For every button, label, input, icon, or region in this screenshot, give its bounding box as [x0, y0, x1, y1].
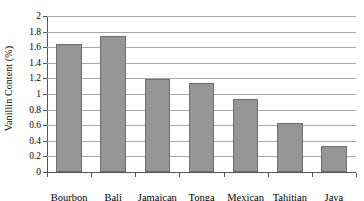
y-axis-tick — [43, 78, 47, 79]
y-axis-tick-label: 0 — [36, 167, 41, 177]
y-axis-tick-label: 1.4 — [29, 58, 41, 68]
y-axis-tick — [43, 94, 47, 95]
gridline — [47, 32, 356, 33]
bar — [145, 79, 171, 172]
x-axis-tick — [356, 173, 357, 177]
y-axis-tick-label: 1 — [36, 89, 41, 99]
x-axis-category-label: Tonga — [188, 192, 214, 201]
y-axis-tick — [43, 110, 47, 111]
y-axis-tick-label: 0.8 — [29, 105, 41, 115]
y-axis-tick — [43, 63, 47, 64]
y-axis-tick-label: 1.8 — [29, 27, 41, 37]
plot-area: 00.20.40.60.811.21.41.61.82 BourbonBaliJ… — [47, 16, 356, 172]
y-axis-tick — [43, 32, 47, 33]
gridline — [47, 47, 356, 48]
x-axis-category-label: Mexican — [227, 192, 264, 201]
y-axis-tick-label: 1.6 — [29, 42, 41, 52]
y-axis-tick — [43, 125, 47, 126]
bar-chart-figure: Vanillin Content (%) 00.20.40.60.811.21.… — [0, 0, 364, 201]
bar — [189, 83, 215, 172]
y-axis-tick — [43, 16, 47, 17]
bar — [233, 99, 259, 172]
y-axis-title: Vanillin Content (%) — [0, 0, 18, 176]
x-axis-category-label: Bourbon — [51, 192, 88, 201]
gridline — [47, 78, 356, 79]
y-axis-tick-label: 1.2 — [29, 73, 41, 83]
y-axis-tick-label: 0.4 — [29, 136, 41, 146]
gridline — [47, 16, 356, 17]
x-axis-category-label: Tahitian — [273, 192, 307, 201]
x-axis-tick — [135, 173, 136, 177]
bar — [277, 123, 303, 172]
x-axis-category-label: Jamaican — [138, 192, 177, 201]
y-axis-tick — [43, 156, 47, 157]
bar — [321, 146, 347, 172]
x-axis-tick — [179, 173, 180, 177]
y-axis-tick-label: 0.2 — [29, 151, 41, 161]
x-axis-category-label: Bali — [104, 192, 122, 201]
y-axis-tick-label: 2 — [36, 11, 41, 21]
x-axis-tick — [268, 173, 269, 177]
y-axis-tick — [43, 141, 47, 142]
y-axis-tick — [43, 47, 47, 48]
y-axis-tick-label: 0.6 — [29, 120, 41, 130]
x-axis-category-label: Java — [325, 192, 344, 201]
bar — [100, 36, 126, 173]
bar — [56, 44, 82, 172]
x-axis-tick — [91, 173, 92, 177]
x-axis-tick — [224, 173, 225, 177]
y-axis-title-text: Vanillin Content (%) — [4, 45, 15, 130]
gridline — [47, 63, 356, 64]
x-axis-tick — [312, 173, 313, 177]
x-axis-line — [47, 172, 356, 173]
x-axis-tick — [47, 173, 48, 177]
